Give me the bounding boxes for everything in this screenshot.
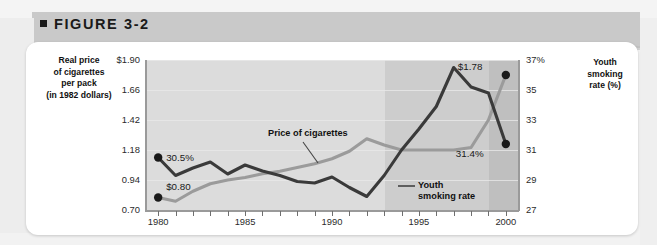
price-start-dot <box>154 193 162 201</box>
price-start-label: $0.80 <box>166 181 191 192</box>
price-label-leader-line <box>303 142 318 163</box>
series-layer <box>0 0 657 245</box>
youth-end-label: 31.4% <box>456 148 484 159</box>
youth-end-dot <box>502 140 510 148</box>
youth-start-dot <box>154 153 162 161</box>
youth-start-label: 30.5% <box>166 152 194 163</box>
price-series-label: Price of cigarettes <box>268 128 348 139</box>
youth-series-label: Youthsmoking rate <box>418 180 475 202</box>
price-end-dot <box>502 71 510 79</box>
price-end-label: $1.78 <box>458 61 483 72</box>
figure-page: FIGURE 3-2 Real priceof cigarettesper pa… <box>0 0 657 245</box>
